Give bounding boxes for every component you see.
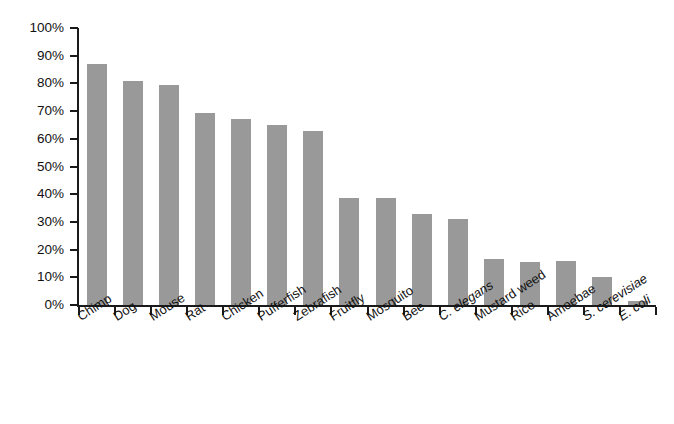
- bar[interactable]: [303, 131, 323, 306]
- y-axis-tick-label: 20%: [0, 243, 64, 257]
- bar[interactable]: [195, 113, 215, 306]
- y-axis-tick-label: 10%: [0, 270, 64, 284]
- y-axis-tick-label: 0%: [0, 298, 64, 312]
- bar[interactable]: [267, 125, 287, 305]
- bar[interactable]: [159, 85, 179, 305]
- y-axis-tick-label: 80%: [0, 76, 64, 90]
- bar[interactable]: [123, 81, 143, 305]
- y-axis-tick-label: 100%: [0, 21, 64, 35]
- x-axis-tick-mark: [655, 307, 657, 315]
- bar[interactable]: [412, 214, 432, 305]
- y-axis-tick-label: 90%: [0, 49, 64, 63]
- y-axis-tick-label: 60%: [0, 132, 64, 146]
- bar-chart: 100%90%80%70%60%50%40%30%20%10%0% ChimpD…: [0, 0, 674, 424]
- y-axis-tick-label: 40%: [0, 187, 64, 201]
- bar[interactable]: [376, 198, 396, 305]
- bar[interactable]: [231, 119, 251, 305]
- y-axis-tick-label: 50%: [0, 160, 64, 174]
- y-axis-tick-label: 70%: [0, 104, 64, 118]
- y-axis: 100%90%80%70%60%50%40%30%20%10%0%: [0, 0, 64, 424]
- bar[interactable]: [87, 64, 107, 305]
- y-axis-tick-label: 30%: [0, 215, 64, 229]
- bar[interactable]: [339, 198, 359, 305]
- plot-area: [79, 28, 656, 305]
